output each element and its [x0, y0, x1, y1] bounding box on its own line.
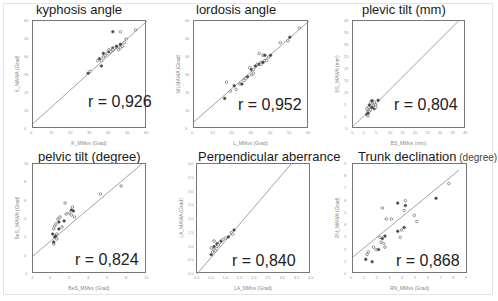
data-point [73, 216, 76, 219]
data-point [371, 99, 374, 102]
data-point [399, 236, 402, 239]
data-point [416, 220, 419, 223]
data-point [264, 54, 267, 57]
data-point [385, 218, 388, 221]
x-tick-label: 0 [350, 275, 352, 280]
correlation-label: r = 0,824 [75, 251, 139, 269]
data-point [211, 251, 214, 254]
data-point [64, 202, 67, 205]
data-point [99, 193, 102, 196]
data-point [404, 199, 407, 202]
data-point [367, 251, 370, 254]
y-tick-label: 35 [344, 30, 348, 35]
data-point [233, 229, 236, 232]
x-tick-label: 2 [68, 275, 70, 280]
plot-area [32, 20, 146, 128]
x-tick-label: 10 [388, 130, 392, 135]
x-tick-label: 0 [191, 130, 193, 135]
data-point [58, 221, 61, 224]
y-tick-label: 10 [344, 90, 348, 95]
panel-title: lordosis angle [196, 3, 276, 17]
x-tick-label: 1,0 [223, 275, 229, 280]
data-point [70, 214, 73, 217]
data-point [435, 197, 438, 200]
data-point [372, 104, 375, 107]
x-tick-label: 5 [414, 275, 416, 280]
data-point [65, 213, 68, 216]
data-point [229, 90, 232, 93]
y-tick-label: 0 [24, 126, 26, 131]
x-tick-label: 5 [375, 130, 377, 135]
y-tick-label: 4,0 [188, 161, 194, 166]
x-tick-label: 6 [427, 275, 429, 280]
x-tick-label: 2,0 [251, 275, 257, 280]
x-tick-label: 4 [401, 275, 403, 280]
data-point [72, 210, 75, 213]
data-point [221, 238, 224, 241]
panel-title: Perpendicular aberrance [198, 150, 340, 164]
data-point [119, 31, 122, 34]
data-point [396, 230, 399, 233]
data-point [63, 220, 66, 223]
data-point [71, 206, 74, 209]
data-point [364, 258, 367, 261]
data-point [380, 241, 383, 244]
data-point [89, 70, 92, 73]
x-tick-label: 0 [363, 130, 365, 135]
y-tick-label: 60 [24, 18, 28, 23]
x-tick-label: 50 [125, 130, 129, 135]
y-tick-label: 0 [24, 253, 26, 258]
y-tick-label: 2,5 [188, 202, 194, 207]
x-tick-label: 40 [106, 130, 110, 135]
data-point [100, 65, 103, 68]
x-tick-label: 30 [249, 130, 253, 135]
y-tick-label: 0,0 [188, 271, 194, 276]
correlation-label: r = 0,804 [394, 96, 458, 114]
data-point [366, 107, 369, 110]
y-tick-label: 6 [24, 198, 26, 203]
correlation-label: r = 0,952 [238, 96, 302, 114]
x-tick-label: 3 [388, 275, 390, 280]
data-point [59, 216, 62, 219]
data-point [120, 185, 123, 188]
y-tick-label: 10 [24, 108, 28, 113]
x-tick-label: 25 [425, 130, 429, 135]
y-tick-label: 2,0 [188, 216, 194, 221]
data-point [374, 106, 377, 109]
y-tick-label: -5 [344, 126, 348, 131]
y-tick-label: 60 [185, 18, 189, 23]
data-point [252, 68, 255, 71]
x-tick-label: 20 [229, 130, 233, 135]
y-tick-label: 30 [344, 42, 348, 47]
x-tick-label: 40 [463, 130, 467, 135]
regression-line [353, 170, 459, 257]
y-tick-label: 0 [185, 126, 187, 131]
data-point [377, 99, 380, 102]
x-axis-label: BS_MMvs (mm) [352, 140, 465, 146]
y-tick-label: 1,5 [188, 230, 194, 235]
x-tick-label: 7 [439, 275, 441, 280]
x-tick-label: 0,0 [194, 275, 200, 280]
panel-title: kyphosis angle [36, 3, 122, 17]
data-point [213, 245, 216, 248]
data-point [371, 260, 374, 263]
data-point [58, 228, 61, 231]
correlation-label: r = 0,868 [396, 252, 460, 270]
data-point [125, 38, 128, 41]
x-tick-label: 35 [450, 130, 454, 135]
panel-title: pelvic tilt (degree) [38, 150, 141, 164]
x-tick-label: 8 [452, 275, 454, 280]
y-tick-label: 2 [344, 247, 346, 252]
y-tick-label: 5 [344, 210, 346, 215]
data-point [227, 236, 230, 239]
y-tick-label: 0 [344, 271, 346, 276]
data-point [287, 40, 290, 43]
data-point [210, 247, 213, 250]
y-tick-label: 25 [344, 54, 348, 59]
y-tick-label: 20 [344, 66, 348, 71]
x-axis-label: L_MMvs (Grad) [193, 140, 308, 146]
y-tick-label: 7 [344, 185, 346, 190]
data-point [214, 249, 217, 252]
y-axis-label: BS_MAWA (mm) [334, 44, 340, 104]
x-tick-label: 0 [49, 275, 51, 280]
